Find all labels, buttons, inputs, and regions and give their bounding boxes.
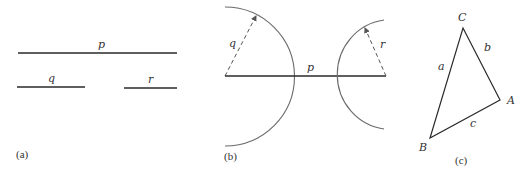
vertex-b: B [418,141,427,154]
radius-r [365,28,386,76]
caption-a: (a) [16,148,29,161]
vertex-a: A [506,94,515,107]
label-p-b: p [307,61,314,74]
geometry-figure: p q r (a) q p r (b) C A B a b c (c) [0,0,521,174]
label-q-b: q [229,37,236,50]
side-b: b [484,41,491,54]
side-c: c [470,117,476,130]
label-q: q [48,72,55,85]
caption-b: (b) [224,150,237,163]
panel-a: p q r (a) [16,38,177,161]
panel-c: C A B a b c (c) [418,11,515,167]
arc-r [337,20,384,129]
panel-b: q p r (b) [224,7,386,163]
label-p: p [98,38,105,51]
caption-c: (c) [455,154,468,167]
label-r-b: r [380,38,386,51]
vertex-c: C [458,11,467,24]
label-r: r [148,73,154,86]
side-a: a [438,60,445,73]
